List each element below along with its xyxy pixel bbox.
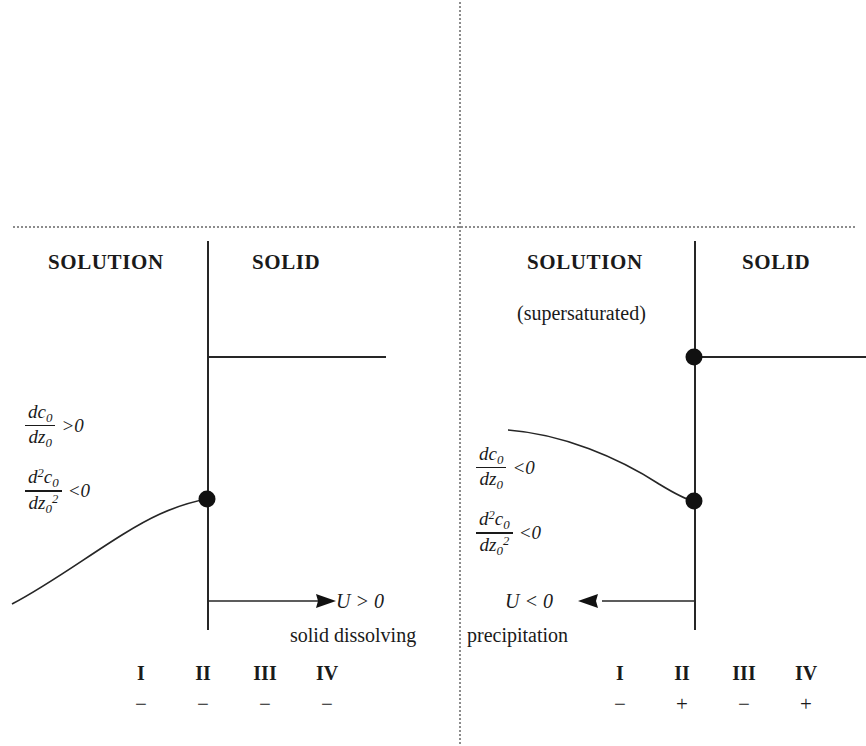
velocity-label-right: U < 0 [505, 590, 553, 613]
sign-table-values-left: − − − − [110, 692, 358, 717]
sign-column-header-i-left: I [110, 662, 172, 685]
second-derivative-den-sup-right: 2 [503, 534, 509, 548]
sign-column-header-iv-right: IV [775, 662, 837, 685]
second-derivative-numvar-sub-right: 0 [503, 517, 509, 532]
first-derivative-relation-right: <0 [512, 457, 534, 479]
first-derivative-left: dc0 dz0 >0 [25, 402, 84, 449]
second-derivative-relation-left: <0 [68, 480, 90, 502]
first-derivative-relation-left: >0 [61, 415, 83, 437]
phase-label-solid-left: SOLID [252, 250, 320, 275]
sign-table-values-right: − + − + [589, 692, 837, 717]
sign-column-header-iii-left: III [234, 662, 296, 685]
first-derivative-numerator-left: dc [28, 401, 46, 422]
second-derivative-den-sup-left: 2 [52, 492, 58, 506]
sign-column-header-ii-right: II [651, 662, 713, 685]
panel-right: SOLUTION SOLID (supersaturated) dc0 dz0 … [459, 226, 866, 746]
concentration-curve-right [459, 226, 739, 646]
second-derivative-denominator-right: dz [480, 534, 497, 555]
solid-concentration-line-left [207, 356, 386, 358]
second-derivative-d-right: d [479, 508, 489, 529]
second-derivative-numvar-sub-left: 0 [52, 475, 58, 490]
panel-left: SOLUTION SOLID dc0 dz0 >0 d2c0 dz02 <0 [0, 226, 459, 746]
interface-velocity-arrow-right [206, 586, 346, 616]
sign-value-iii-right: − [713, 692, 775, 717]
first-derivative-numerator-sub-right: 0 [497, 452, 503, 467]
second-derivative-right: d2c0 dz02 <0 [476, 509, 541, 557]
second-derivative-d-left: d [28, 466, 38, 487]
sign-value-iv-left: − [296, 692, 358, 717]
process-caption-left: solid dissolving [290, 624, 416, 647]
sign-column-header-ii-left: II [172, 662, 234, 685]
sign-value-ii-right: + [651, 692, 713, 717]
second-derivative-denominator-left: dz [29, 492, 46, 513]
sign-value-ii-left: − [172, 692, 234, 717]
second-derivative-left: d2c0 dz02 <0 [25, 467, 90, 515]
figure-canvas: SOLUTION SOLID dc0 dz0 >0 d2c0 dz02 <0 [0, 0, 866, 746]
process-caption-right: precipitation [467, 624, 568, 647]
sign-column-header-i-right: I [589, 662, 651, 685]
velocity-label-left: U > 0 [336, 590, 384, 613]
second-derivative-numvar-right: c [495, 508, 503, 529]
sign-value-i-right: − [589, 692, 651, 717]
interface-velocity-arrow-left [576, 586, 716, 616]
sign-value-i-left: − [110, 692, 172, 717]
sign-table-header-right: I II III IV [589, 662, 837, 685]
second-derivative-numvar-left: c [44, 466, 52, 487]
sign-table-header-left: I II III IV [110, 662, 358, 685]
sign-value-iii-left: − [234, 692, 296, 717]
sign-column-header-iii-right: III [713, 662, 775, 685]
first-derivative-numerator-right: dc [479, 443, 497, 464]
first-derivative-denominator-right: dz [480, 468, 497, 489]
first-derivative-right: dc0 dz0 <0 [476, 444, 535, 491]
first-derivative-denominator-sub-right: 0 [496, 477, 502, 492]
phase-label-solid-right: SOLID [742, 250, 810, 275]
sign-column-header-iv-left: IV [296, 662, 358, 685]
second-derivative-relation-right: <0 [519, 522, 541, 544]
sign-value-iv-right: + [775, 692, 837, 717]
first-derivative-numerator-sub-left: 0 [46, 410, 52, 425]
first-derivative-denominator-left: dz [29, 426, 46, 447]
first-derivative-denominator-sub-left: 0 [45, 435, 51, 450]
